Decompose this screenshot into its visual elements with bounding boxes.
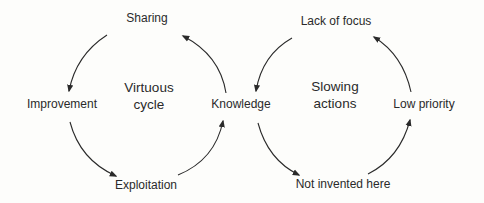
node-sharing: Sharing [126, 11, 167, 25]
arrow-lowpriority-to-lackoffocus [374, 37, 411, 92]
node-not-invented-here: Not invented here [296, 177, 391, 191]
cycle-title-line: cycle [124, 96, 173, 113]
arrow-knowledge-to-notinventedhere [258, 123, 299, 175]
cycle-title-virtuous: Virtuous cycle [124, 79, 173, 113]
node-lack-of-focus: Lack of focus [301, 14, 372, 28]
cycle-title-line: actions [311, 95, 358, 112]
node-improvement: Improvement [27, 97, 97, 111]
node-knowledge: Knowledge [211, 97, 270, 111]
cycle-diagram: Sharing Improvement Exploitation Knowled… [0, 0, 484, 203]
arrow-sharing-to-improvement [69, 35, 107, 91]
arrow-notinventedhere-to-lowpriority [368, 120, 410, 174]
cycle-title-slowing: Slowing actions [311, 78, 358, 112]
arrow-exploitation-to-knowledge [178, 121, 223, 175]
cycle-title-line: Slowing [311, 78, 358, 95]
cycle-title-line: Virtuous [124, 79, 173, 96]
arrow-knowledge-to-sharing [183, 36, 226, 93]
arrow-lackoffocus-to-knowledge [256, 38, 292, 91]
arrow-improvement-to-exploitation [70, 122, 116, 176]
node-exploitation: Exploitation [115, 178, 177, 192]
node-low-priority: Low priority [393, 97, 454, 111]
